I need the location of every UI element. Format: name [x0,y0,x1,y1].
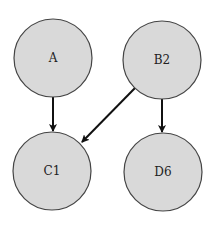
edge-b2-to-c1 [82,88,135,142]
node-c1: C1 [13,132,91,210]
node-d6-label: D6 [154,165,171,179]
graph-diagram: A B2 C1 D6 [0,0,214,226]
node-c1-label: C1 [44,164,61,178]
node-b2: B2 [123,21,201,99]
node-a-label: A [48,51,58,65]
node-b2-label: B2 [154,53,170,67]
node-a: A [14,19,92,97]
node-d6: D6 [124,133,202,211]
edges [53,88,162,142]
